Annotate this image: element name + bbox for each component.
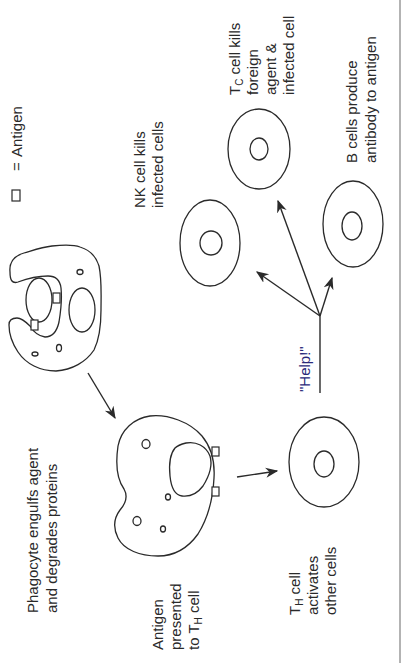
legend-equals: = [8,162,25,171]
label-phagocyte: Phagocyte engulfs agent and degrades pro… [24,447,60,613]
text-t: T [286,606,303,615]
th-cell-nucleus [314,451,334,477]
th-cell-membrane [289,417,359,507]
text-t: T [226,86,243,95]
antigen-presenting-cell [115,416,219,556]
label-tc-cell-line3: agent & [262,43,279,95]
granule [133,517,141,526]
label-th-cell-line3: other cells [322,547,339,615]
text-cell-kills: cell kills [226,23,243,79]
subscript-h: H [193,617,204,624]
antigen-icon [212,447,219,456]
label-tc-cell-line4: infected cell [280,16,297,95]
nk-cell-membrane [180,200,240,286]
apc-nucleus [170,443,211,497]
arrow-help-to-b [320,278,332,316]
arrow-help-to-nk [257,272,320,316]
arrow-present-to-th [237,471,277,477]
legend-label: Antigen [8,106,25,157]
label-phagocyte-line1: Phagocyte engulfs agent [24,447,41,613]
b-cell-membrane [323,181,383,267]
text-cell: cell [286,572,303,599]
apc-membrane [115,416,214,556]
label-b-cells-line2: antibody to antigen [362,36,379,163]
label-b-cells: B cells produce antibody to antigen [343,36,379,163]
granule [142,440,150,449]
tc-cell [228,109,290,189]
label-b-cells-line1: B cells produce [343,60,360,163]
tc-cell-nucleus [250,138,268,160]
b-cell [323,181,383,267]
label-antigen-presented-line1: Antigen [149,599,166,650]
nk-cell-nucleus [200,231,222,255]
label-nk-cell-line1: NK cell kills [131,131,148,208]
granule [166,494,171,500]
label-antigen-presented-line3: to TH cell [185,591,204,651]
immune-response-diagram: = Antigen "Help!" [0,0,407,663]
label-th-cell-line2: activates [304,556,321,615]
text-t: to T [185,624,202,650]
engulfed-agent [26,278,52,322]
b-cell-nucleus [342,212,362,240]
label-nk-cell: NK cell kills infected cells [131,121,166,208]
label-th-cell-line1: TH cell [286,572,305,615]
arrow-help-to-tc [278,201,320,316]
label-antigen-presented: Antigen presented to TH cell [149,583,204,650]
antigen-legend-icon [12,190,20,201]
help-label: "Help!" [296,346,313,392]
label-tc-cell-line1: TC cell kills [226,23,245,95]
antigen-icon [31,320,38,330]
phagocyte-engulfing [9,245,101,371]
label-tc-cell: TC cell kills foreign agent & infected c… [226,16,297,95]
label-antigen-presented-line2: presented [167,583,184,650]
granule [77,270,83,275]
antigen-icon [53,293,60,303]
th-cell [289,417,359,507]
granule [57,345,62,352]
label-phagocyte-line2: and degrades proteins [43,464,60,613]
vacuole [69,288,95,332]
label-th-cell: TH cell activates other cells [286,547,339,615]
antigen-icon [212,487,219,496]
nk-cell [180,200,240,286]
label-tc-cell-line2: foreign [244,49,261,95]
granule [161,526,166,532]
granule [32,352,38,356]
legend: = Antigen [8,106,25,201]
phagocyte-engulfing-membrane [9,245,101,371]
label-nk-cell-line2: infected cells [149,121,166,208]
arrow-engulf-to-present [88,373,115,418]
tc-cell-membrane [228,109,290,189]
text-cell: cell [185,591,202,618]
